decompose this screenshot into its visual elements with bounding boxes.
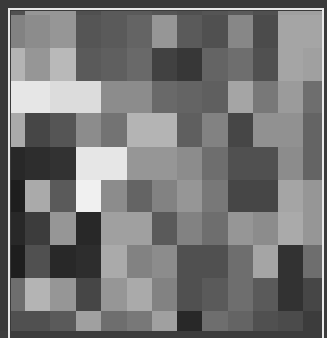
mosaic-cell bbox=[177, 311, 202, 331]
mosaic-cell bbox=[127, 15, 152, 48]
mosaic-cell bbox=[177, 245, 202, 278]
mosaic-cell bbox=[253, 311, 278, 331]
mosaic-cell bbox=[101, 212, 127, 245]
mosaic-cell bbox=[253, 113, 278, 147]
mosaic-cell bbox=[303, 180, 322, 212]
mosaic-cell bbox=[25, 81, 50, 113]
mosaic-cell bbox=[127, 81, 152, 113]
mosaic-cell bbox=[202, 278, 228, 311]
mosaic-cell bbox=[278, 147, 303, 180]
mosaic-cell bbox=[50, 212, 76, 245]
mosaic-cell bbox=[101, 311, 127, 331]
mosaic-cell bbox=[50, 147, 76, 180]
mosaic-cell bbox=[50, 245, 76, 278]
mosaic-cell bbox=[253, 180, 278, 212]
mosaic-cell bbox=[76, 278, 101, 311]
mosaic-cell bbox=[127, 245, 152, 278]
mosaic-cell bbox=[303, 245, 322, 278]
mosaic-cell bbox=[303, 48, 322, 81]
mosaic-cell bbox=[76, 15, 101, 48]
mosaic-cell bbox=[253, 48, 278, 81]
mosaic-cell bbox=[127, 311, 152, 331]
mosaic-cell bbox=[228, 245, 253, 278]
mosaic-cell bbox=[101, 48, 127, 81]
mosaic-cell bbox=[177, 113, 202, 147]
mosaic-cell bbox=[101, 113, 127, 147]
mosaic-cell bbox=[127, 147, 152, 180]
mosaic-cell bbox=[177, 147, 202, 180]
mosaic-cell bbox=[278, 180, 303, 212]
mosaic-cell bbox=[228, 48, 253, 81]
mosaic-cell bbox=[228, 311, 253, 331]
mosaic-cell bbox=[101, 15, 127, 48]
mosaic-cell bbox=[25, 245, 50, 278]
mosaic-cell bbox=[278, 278, 303, 311]
mosaic-cell bbox=[11, 81, 25, 113]
mosaic-cell bbox=[50, 48, 76, 81]
mosaic-cell bbox=[50, 278, 76, 311]
mosaic-cell bbox=[303, 147, 322, 180]
mosaic-cell bbox=[228, 81, 253, 113]
mosaic-cell bbox=[278, 48, 303, 81]
mosaic-cell bbox=[11, 180, 25, 212]
mosaic-cell bbox=[228, 212, 253, 245]
mosaic-cell bbox=[11, 212, 25, 245]
mosaic-cell bbox=[152, 81, 177, 113]
mosaic-cell bbox=[303, 113, 322, 147]
mosaic-cell bbox=[50, 311, 76, 331]
mosaic-cell bbox=[50, 180, 76, 212]
mosaic-cell bbox=[76, 81, 101, 113]
mosaic-cell bbox=[253, 147, 278, 180]
mosaic-cell bbox=[278, 15, 303, 48]
mosaic-cell bbox=[25, 311, 50, 331]
mosaic-cell bbox=[25, 180, 50, 212]
mosaic-cell bbox=[25, 113, 50, 147]
mosaic-cell bbox=[202, 212, 228, 245]
mosaic-cell bbox=[177, 212, 202, 245]
mosaic-cell bbox=[11, 48, 25, 81]
mosaic-cell bbox=[278, 81, 303, 113]
mosaic-cell bbox=[202, 81, 228, 113]
mosaic-cell bbox=[202, 311, 228, 331]
mosaic-cell bbox=[152, 278, 177, 311]
mosaic-cell bbox=[50, 113, 76, 147]
mosaic-cell bbox=[152, 113, 177, 147]
mosaic-cell bbox=[76, 245, 101, 278]
mosaic-cell bbox=[25, 48, 50, 81]
mosaic-cell bbox=[228, 278, 253, 311]
mosaic-cell bbox=[228, 180, 253, 212]
mosaic-cell bbox=[76, 113, 101, 147]
mosaic-cell bbox=[278, 245, 303, 278]
mosaic-cell bbox=[303, 212, 322, 245]
mosaic-cell bbox=[253, 15, 278, 48]
mosaic-cell bbox=[50, 81, 76, 113]
mosaic-cell bbox=[202, 15, 228, 48]
mosaic-cell bbox=[278, 113, 303, 147]
mosaic-cell bbox=[25, 147, 50, 180]
mosaic-cell bbox=[76, 147, 101, 180]
mosaic-cell bbox=[253, 81, 278, 113]
mosaic-cell bbox=[11, 311, 25, 331]
mosaic-cell bbox=[11, 15, 25, 48]
mosaic-cell bbox=[177, 81, 202, 113]
mosaic-cell bbox=[152, 147, 177, 180]
mosaic-cell bbox=[11, 245, 25, 278]
mosaic-cell bbox=[303, 81, 322, 113]
mosaic-cell bbox=[127, 48, 152, 81]
mosaic-cell bbox=[152, 180, 177, 212]
mosaic-cell bbox=[303, 15, 322, 48]
mosaic-cell bbox=[25, 278, 50, 311]
mosaic-cell bbox=[76, 180, 101, 212]
mosaic-cell bbox=[253, 278, 278, 311]
mosaic-cell bbox=[101, 81, 127, 113]
mosaic-cell bbox=[11, 147, 25, 180]
mosaic-cell bbox=[76, 48, 101, 81]
mosaic-cell bbox=[177, 278, 202, 311]
mosaic-cell bbox=[202, 180, 228, 212]
mosaic-cell bbox=[127, 180, 152, 212]
mosaic-cell bbox=[253, 212, 278, 245]
mosaic-cell bbox=[152, 311, 177, 331]
mosaic-cell bbox=[177, 15, 202, 48]
mosaic-cell bbox=[303, 278, 322, 311]
